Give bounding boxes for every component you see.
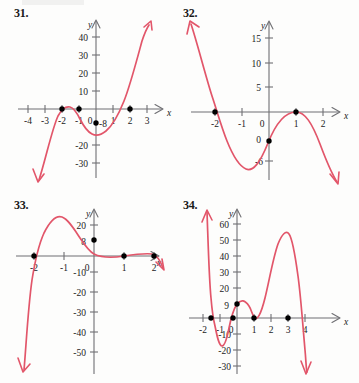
y-tick-label: -30 [218,362,231,372]
marked-point [121,253,126,258]
x-tick-label: -2 [199,325,207,335]
exercise-cell-32: 32. -2 -1 0 1 2 15 10 [179,0,359,190]
marked-point [212,109,217,114]
y-tick-label: -10 [218,330,231,340]
exercise-grid: 31. [0,0,359,383]
x-tick-label: 1 [294,119,299,129]
y-tick-label: -8 [99,119,107,129]
x-tick-label: -1 [238,119,246,129]
exercise-cell-33: 33. -2 -1 0 1 2 [0,190,179,383]
x-tick-label: 2 [321,119,326,129]
marked-point [208,315,213,320]
y-tick-label: -20 [75,141,88,151]
y-tick-label: -30 [75,159,88,169]
marked-point [285,315,290,320]
y-tick-label: 15 [252,34,262,44]
graph-34-svg: -2 -1 0 1 2 3 4 60 50 40 30 20 9 -10 -20… [181,198,353,380]
y-tick-label: 10 [79,87,89,97]
y-axis-label: y [87,20,93,30]
y-tick-label: 30 [79,51,89,61]
y-tick-label: -20 [73,288,86,298]
y-tick-label: 0 [256,135,261,145]
y-axis-label: y [260,21,266,31]
marked-point [31,253,36,258]
x-tick-label: 0 [88,116,93,126]
x-tick-label: -1 [60,263,68,273]
exercise-cell-31: 31. [0,0,179,190]
marked-point [59,106,64,111]
y-tick-label: -20 [218,346,231,356]
x-tick-label: -4 [24,116,32,126]
y-tick-label: 40 [220,252,230,262]
y-tick-label: -40 [73,328,86,338]
y-tick-label: 5 [256,83,261,93]
marked-point [251,315,256,320]
x-tick-label: 1 [252,325,257,335]
graph-32: -2 -1 0 1 2 15 10 5 0 -6 x y [181,8,353,186]
y-axis-label: y [85,209,91,219]
x-tick-label: 2 [152,263,157,273]
marked-point [234,301,239,306]
y-tick-label: 30 [220,268,230,278]
graph-33-svg: -2 -1 0 1 2 20 8 -10 -20 -30 -40 -50 x y [6,198,174,380]
polynomial-curve [191,24,337,182]
y-tick-label: 20 [220,284,230,294]
graph-34: -2 -1 0 1 2 3 4 60 50 40 30 20 9 -10 -20… [181,198,353,380]
marked-point [230,315,235,320]
x-tick-label: 2 [269,325,274,335]
graph-31: -4 -3 -2 -1 0 1 2 3 40 30 20 10 -8 -20 -… [6,8,174,186]
graph-33: -2 -1 0 1 2 20 8 -10 -20 -30 -40 -50 x y [6,198,174,380]
marked-point [293,109,298,114]
x-tick-label: -2 [211,119,219,129]
x-axis-label: x [343,317,349,327]
x-tick-label: -2 [58,116,66,126]
marked-point [266,138,271,143]
marked-point [76,106,81,111]
x-tick-label: 3 [145,116,150,126]
x-axis-label: x [343,111,349,121]
marked-point [91,237,96,242]
y-tick-label: 40 [79,33,89,43]
graph-32-svg: -2 -1 0 1 2 15 10 5 0 -6 x y [181,8,353,186]
y-tick-label: 9 [224,301,229,311]
graph-31-svg: -4 -3 -2 -1 0 1 2 3 40 30 20 10 -8 -20 -… [6,8,174,186]
y-axis-label: y [228,209,234,219]
x-tick-label: 3 [286,325,291,335]
x-tick-label: -3 [41,116,49,126]
x-axis-label: x [166,108,172,118]
marked-point [127,106,132,111]
x-tick-label: 1 [122,263,127,273]
marked-point [93,120,98,125]
x-tick-label: 0 [260,119,265,129]
y-tick-label: 10 [252,59,262,69]
marked-point [151,253,156,258]
y-tick-label: -10 [73,268,86,278]
y-tick-label: 50 [220,236,230,246]
x-tick-label: 2 [128,116,133,126]
y-tick-label: -50 [73,348,86,358]
y-tick-label: 60 [220,220,230,230]
y-tick-label: 20 [79,69,89,79]
y-tick-label: 20 [77,221,87,231]
y-tick-label: -30 [73,308,86,318]
polynomial-curve [39,25,149,180]
exercise-cell-34: 34. -2 -1 [179,190,359,383]
